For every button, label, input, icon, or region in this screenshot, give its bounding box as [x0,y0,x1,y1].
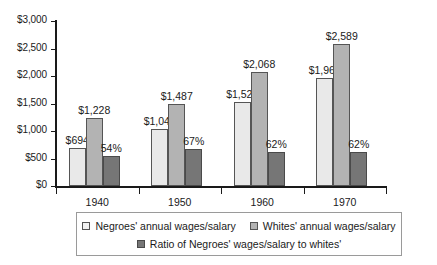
bar-ratio-1940 [103,156,120,186]
bar-white-1970 [333,44,350,186]
bar-negro-1960 [234,102,251,186]
bar-value-label: 67% [170,135,218,147]
bar-value-label: 54% [87,142,135,154]
x-axis-category-1970: 1970 [304,196,387,208]
bar-ratio-1960 [268,152,285,186]
bar-value-label: 62% [252,138,300,150]
bar-value-label: $2,589 [318,30,366,42]
bar-ratio-1950 [185,149,202,186]
x-axis-category-1940: 1940 [56,196,139,208]
legend-swatch-icon [250,222,258,230]
y-axis-tick-label: $500 [25,152,47,163]
y-axis-tick-label: $3,000 [17,14,47,25]
bar-value-label: 62% [335,138,383,150]
x-axis-tick-mark [221,188,222,194]
bar-negro-1970 [316,78,333,186]
chart-legend: Negroes' annual wages/salaryWhites' annu… [76,212,402,256]
legend-swatch-icon [137,240,145,248]
x-axis-category-1950: 1950 [139,196,222,208]
plot-area: $694$1,22854%$1,044$1,48767%$1,523$2,068… [56,21,386,186]
legend-entry: Whites' annual wages/salary [250,220,396,232]
x-axis-tick-mark [386,188,387,194]
y-axis-tick-label: $2,500 [17,42,47,53]
x-axis-tick-mark [139,188,140,194]
legend-swatch-icon [82,222,90,230]
legend-label: Ratio of Negroes' wages/salary to whites… [150,238,341,250]
legend-row-2: Ratio of Negroes' wages/salary to whites… [77,238,401,250]
legend-label: Whites' annual wages/salary [263,220,396,232]
bar-value-label: $2,068 [235,58,283,70]
legend-entry: Negroes' annual wages/salary [82,220,235,232]
legend-label: Negroes' annual wages/salary [95,220,235,232]
y-axis-tick-label: $1,500 [17,97,47,108]
bar-value-label: $1,487 [153,90,201,102]
legend-row-1: Negroes' annual wages/salaryWhites' annu… [77,220,401,232]
x-axis-tick-mark [304,188,305,194]
bar-negro-1950 [151,129,168,186]
x-axis-tick-mark [56,188,57,194]
bar-ratio-1970 [350,152,367,186]
bar-chart: $0$500$1,000$1,500$2,000$2,500$3,000 $69… [0,0,437,265]
bar-white-1960 [251,72,268,186]
bar-value-label: $1,228 [70,104,118,116]
x-axis-category-1960: 1960 [221,196,304,208]
legend-entry: Ratio of Negroes' wages/salary to whites… [137,238,341,250]
y-axis-tick-mark [51,186,56,187]
y-axis-tick-label: $2,000 [17,69,47,80]
bar-negro-1940 [69,148,86,186]
y-axis-tick-label: $1,000 [17,124,47,135]
y-axis-tick-label: $0 [36,179,47,190]
